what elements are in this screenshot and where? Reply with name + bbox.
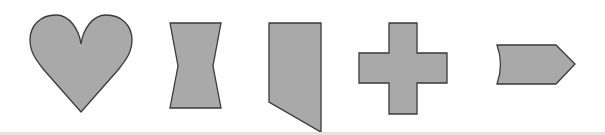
heart-shape [30, 15, 132, 112]
cross-shape [359, 23, 447, 114]
shapes-canvas [0, 0, 605, 135]
hourglass-shape [170, 23, 221, 108]
chevron-arrow-shape [497, 45, 575, 84]
bottom-divider [0, 132, 605, 135]
slanted-pentagon-shape [269, 23, 321, 132]
